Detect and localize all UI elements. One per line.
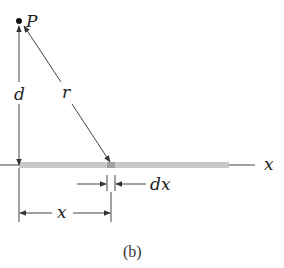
r-label: r bbox=[62, 82, 71, 102]
point-p-label: P bbox=[25, 11, 38, 31]
d-label: d bbox=[14, 84, 25, 104]
x-dim-label: x bbox=[57, 202, 67, 222]
r-line-lower bbox=[72, 104, 110, 162]
x-axis-label: x bbox=[264, 154, 274, 174]
dx-label: dx bbox=[150, 174, 171, 194]
caption: (b) bbox=[123, 243, 142, 261]
charged-rod-diagram: P d r x dx x (b) bbox=[0, 0, 284, 268]
point-p bbox=[16, 18, 22, 24]
charged-rod bbox=[19, 162, 229, 168]
r-line-upper bbox=[24, 26, 61, 82]
rod-element-dx bbox=[107, 162, 115, 168]
